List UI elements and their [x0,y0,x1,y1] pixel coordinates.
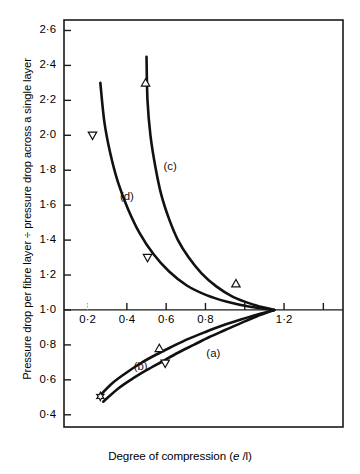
y-tick-label: 2·2 [22,93,56,105]
curve-label-d: (d) [120,190,134,202]
marker-triangle-down-icon [88,132,96,139]
curve-c [147,57,275,310]
curve-label-b: (b) [134,360,148,372]
marker-triangle-up-icon [141,79,149,86]
marker-triangle-down-icon [143,254,151,261]
y-tick-label: 1·6 [22,198,56,210]
y-tick-label: 1·2 [22,268,56,280]
chart-figure: Pressure drop per fibre layer ÷ pressure… [0,0,360,474]
y-tick-label: 2·4 [22,58,56,70]
marker-triangle-up-icon [155,344,163,351]
marker-triangle-down-icon [161,360,169,367]
y-tick-label: 1·0 [22,303,56,315]
marker-triangle-up-icon [232,280,240,287]
curve-label-a: (a) [206,347,220,359]
y-tick-label: 1·8 [22,163,56,175]
curve-label-c: (c) [163,160,176,172]
x-tick-label: 0·2 [71,313,105,325]
plot-frame [64,20,343,427]
y-tick-label: 0·4 [22,408,56,420]
x-tick-label: 0·8 [188,313,222,325]
x-tick-label: 1·2 [267,313,301,325]
y-tick-label: 2·6 [22,23,56,35]
y-tick-label: 2·0 [22,128,56,140]
y-tick-label: 0·6 [22,373,56,385]
x-tick-label: 0·4 [110,313,144,325]
y-tick-label: 1·4 [22,233,56,245]
x-tick-label: 0·6 [149,313,183,325]
y-tick-label: 0·8 [22,338,56,350]
